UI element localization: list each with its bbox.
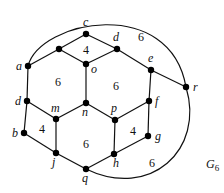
- edge-u-o: [59, 49, 86, 64]
- vertex-label-b: b: [12, 126, 18, 140]
- vertex-r: [183, 84, 189, 90]
- vertex-g: [145, 133, 151, 139]
- vertex-b: [21, 130, 27, 136]
- face-label: 4: [39, 122, 45, 136]
- vertex-label-f: f: [155, 94, 160, 108]
- vertex-label-n: n: [82, 105, 88, 119]
- vertex-label-m: m: [51, 101, 60, 115]
- vertex-o: [83, 61, 89, 67]
- graph-diagram: caoderfnmpdbgjhq 46664646 G6: [0, 0, 224, 193]
- vertex-label-e: e: [148, 51, 154, 65]
- edge-p-h: [114, 120, 115, 154]
- edge-d1-e: [117, 49, 151, 70]
- graph-name: G: [206, 157, 215, 171]
- vertex-label-q: q: [82, 171, 88, 185]
- arc-a-r: [28, 25, 186, 87]
- face-label: 4: [130, 124, 136, 138]
- vertex-e: [148, 67, 154, 73]
- vertex-a: [25, 63, 31, 69]
- face-label: 6: [83, 137, 89, 151]
- vertex-label-r: r: [193, 80, 198, 94]
- edge-a-u: [28, 49, 59, 66]
- vertex-label-d2: d: [15, 94, 22, 108]
- vertex-label-a: a: [16, 59, 22, 73]
- edge-d2-b: [24, 101, 27, 133]
- vertex-label-h: h: [113, 156, 119, 170]
- face-label: 6: [55, 75, 61, 89]
- vertex-label-j: j: [50, 155, 56, 169]
- vertex-m: [53, 116, 59, 122]
- vertex-label-d1: d: [113, 30, 120, 44]
- face-label: 4: [83, 43, 89, 57]
- vertex-d2: [24, 98, 30, 104]
- face-label: 6: [138, 30, 144, 44]
- edge-u-c: [59, 34, 86, 49]
- graph-name-label: G6: [206, 157, 220, 173]
- face-label: 6: [149, 156, 155, 170]
- edge-h-q: [86, 154, 114, 169]
- vertex-u: [56, 46, 62, 52]
- vertex-p: [112, 117, 118, 123]
- edge-p-f: [115, 101, 149, 120]
- vertices: [21, 31, 189, 172]
- edge-f-g: [148, 101, 149, 136]
- edge-e-f: [149, 70, 151, 101]
- edge-j-q: [56, 153, 86, 169]
- vertex-label-g: g: [155, 129, 161, 143]
- edges: [24, 34, 186, 169]
- vertex-label-p: p: [110, 101, 117, 115]
- vertex-label-c: c: [83, 15, 89, 29]
- vertex-label-o: o: [91, 62, 97, 76]
- vertex-c: [83, 31, 89, 37]
- vertex-f: [146, 98, 152, 104]
- face-label: 6: [113, 79, 119, 93]
- vertex-d1: [114, 46, 120, 52]
- graph-name-subscript: 6: [215, 163, 220, 173]
- arc-r-q: [86, 87, 190, 178]
- graph-svg: caoderfnmpdbgjhq 46664646 G6: [0, 0, 224, 193]
- edge-g-h: [114, 136, 148, 154]
- edge-e-r: [151, 70, 186, 87]
- edge-b-j: [24, 133, 56, 153]
- edge-a-d2: [27, 66, 28, 101]
